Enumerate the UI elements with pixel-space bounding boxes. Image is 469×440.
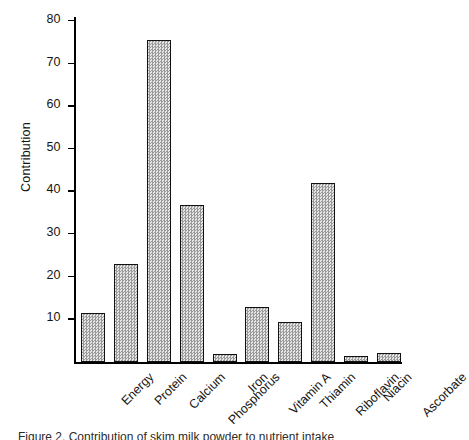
y-tick-label-30: 30 [47, 225, 61, 239]
bar-ascorbate [377, 353, 401, 363]
bar-vitamin-a [245, 307, 269, 362]
y-tick-label-70: 70 [47, 55, 61, 69]
bar-energy [81, 313, 105, 362]
bar-niacin [344, 356, 368, 362]
bar-riboflavin [311, 183, 335, 362]
bar-thiamin [278, 322, 302, 363]
bar-phosphorus [180, 205, 204, 363]
bar-calcium [147, 40, 171, 363]
x-label-energy: Energy [119, 370, 157, 408]
y-axis-title: Contribution [19, 87, 33, 227]
y-tick-label-20: 20 [47, 268, 61, 282]
y-tick-label-40: 40 [47, 182, 61, 196]
figure-caption: Figure 2. Contribution of skim milk powd… [18, 430, 418, 440]
plot-area: 1020304050607080 EnergyProteinCalciumPho… [74, 17, 414, 364]
bar-protein [114, 264, 138, 362]
y-tick-label-60: 60 [47, 97, 61, 111]
y-tick-label-80: 80 [47, 12, 61, 26]
x-label-protein: Protein [152, 370, 190, 408]
x-label-calcium: Calcium [186, 370, 228, 412]
bar-iron [213, 354, 237, 363]
y-tick-label-10: 10 [47, 310, 61, 324]
x-label-ascorbate: Ascorbate [419, 370, 469, 420]
bar-series [74, 17, 414, 364]
y-tick-label-50: 50 [47, 140, 61, 154]
